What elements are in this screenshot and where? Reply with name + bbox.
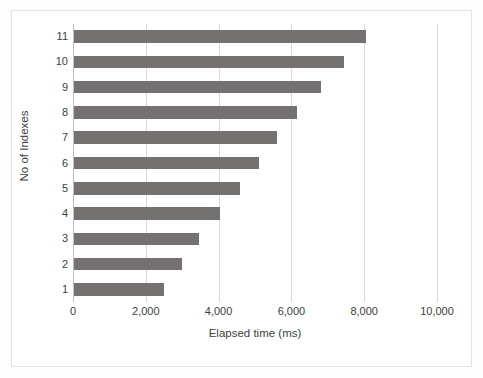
y-axis-line (73, 24, 74, 302)
bar[interactable] (73, 233, 199, 246)
x-axis-title: Elapsed time (ms) (73, 327, 437, 339)
bar-row (73, 106, 437, 119)
bar[interactable] (73, 157, 259, 170)
x-axis-tick-label: 8,000 (350, 306, 378, 317)
bar[interactable] (73, 258, 182, 271)
plot-area (73, 24, 437, 302)
y-axis-tick-label: 7 (62, 132, 68, 143)
gridline (437, 24, 438, 302)
bar-chart: 1110987654321 02,0004,0006,0008,00010,00… (0, 0, 483, 378)
bar[interactable] (73, 283, 164, 296)
x-axis-tick-label: 4,000 (205, 306, 233, 317)
bar-row (73, 56, 437, 69)
y-axis-tick-label: 4 (62, 208, 68, 219)
bar-row (73, 131, 437, 144)
bar[interactable] (73, 207, 220, 220)
y-axis-title: No of Indexes (18, 86, 30, 206)
x-axis-tick-label: 0 (70, 306, 76, 317)
bar-row (73, 258, 437, 271)
x-axis-tick-label: 10,000 (420, 306, 454, 317)
y-axis-tick-label: 3 (62, 233, 68, 244)
bar[interactable] (73, 56, 344, 69)
bar[interactable] (73, 182, 240, 195)
y-axis-tick-label: 2 (62, 259, 68, 270)
y-axis-tick-label: 10 (56, 56, 68, 67)
y-axis-tick-label: 1 (62, 284, 68, 295)
bar-row (73, 283, 437, 296)
bar-row (73, 30, 437, 43)
bar-row (73, 182, 437, 195)
y-axis-tick-label: 5 (62, 183, 68, 194)
bar[interactable] (73, 106, 297, 119)
y-axis-tick-label: 8 (62, 107, 68, 118)
y-axis-tick-label: 11 (57, 31, 68, 42)
bar-series (73, 24, 437, 302)
x-axis-tick-labels: 02,0004,0006,0008,00010,000 (73, 306, 437, 322)
bar[interactable] (73, 81, 321, 94)
bar[interactable] (73, 30, 366, 43)
bar-row (73, 207, 437, 220)
bar[interactable] (73, 131, 277, 144)
bar-row (73, 81, 437, 94)
bar-row (73, 233, 437, 246)
y-axis-tick-label: 9 (62, 82, 68, 93)
y-axis-tick-labels: 1110987654321 (24, 24, 68, 302)
x-axis-tick-label: 2,000 (132, 306, 160, 317)
x-axis-tick-label: 6,000 (278, 306, 306, 317)
y-axis-tick-label: 6 (62, 158, 68, 169)
bar-row (73, 157, 437, 170)
